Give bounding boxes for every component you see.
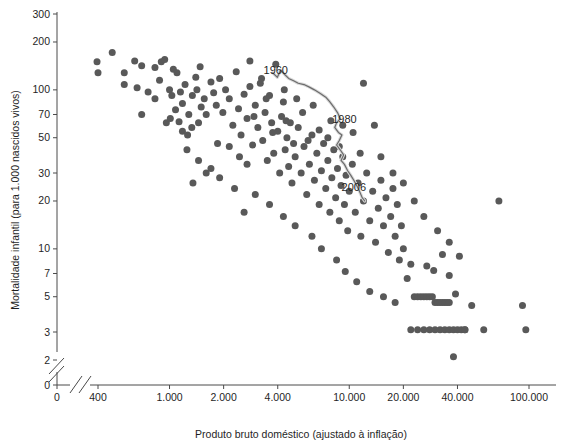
data-point [195, 119, 202, 126]
data-point [241, 209, 248, 216]
data-point [369, 188, 376, 195]
data-point [280, 98, 287, 105]
data-point [389, 170, 396, 177]
data-point [306, 161, 313, 168]
data-point [446, 239, 453, 246]
data-point [167, 115, 174, 122]
data-point [377, 177, 384, 184]
y-tick-label: 50 [38, 131, 50, 143]
annotation-label-2006: 2006 [342, 181, 366, 193]
data-point [176, 118, 183, 125]
data-point [423, 263, 430, 270]
data-point [360, 80, 367, 87]
data-point [229, 122, 236, 129]
data-point [394, 201, 401, 208]
data-point [207, 79, 214, 86]
data-point [414, 326, 421, 333]
data-point [468, 302, 475, 309]
x-tick-label: 1.000 [156, 391, 182, 403]
data-point [179, 128, 186, 135]
data-point [95, 69, 102, 76]
data-point [377, 153, 384, 160]
data-point [238, 132, 245, 139]
y-axis-title: Mortalidade infantil (para 1.000 nascido… [9, 90, 21, 309]
data-point [452, 291, 459, 298]
data-point [94, 58, 101, 65]
data-point [320, 140, 327, 147]
x-tick-label: 10.000 [333, 391, 365, 403]
data-point [219, 109, 226, 116]
data-point [411, 198, 418, 205]
data-point [262, 109, 269, 116]
data-point [450, 353, 457, 360]
data-point [313, 150, 320, 157]
data-point [334, 165, 341, 172]
data-point [168, 92, 175, 99]
data-point [222, 86, 229, 93]
scatter-plot-svg: 300200100705030201075320 04001.0002.0004… [0, 0, 562, 447]
data-point [357, 150, 364, 157]
data-point [308, 233, 315, 240]
data-point [283, 117, 290, 124]
data-point [276, 170, 283, 177]
data-point [134, 84, 141, 91]
data-point [301, 143, 308, 150]
data-point [495, 198, 502, 205]
data-point [446, 272, 453, 279]
y-tick-label: 0 [44, 379, 50, 391]
data-point [121, 69, 128, 76]
data-point [407, 261, 414, 268]
data-point [197, 63, 204, 70]
data-point [138, 111, 145, 118]
data-point [121, 81, 128, 88]
data-point [231, 185, 238, 192]
data-point [233, 68, 240, 75]
data-point [285, 163, 292, 170]
data-point [151, 95, 158, 102]
data-point [522, 326, 529, 333]
data-point [456, 253, 463, 260]
data-point [249, 142, 256, 149]
data-point [203, 111, 210, 118]
data-point [400, 179, 407, 186]
data-point [216, 174, 223, 181]
data-point [353, 278, 360, 285]
data-point [259, 137, 266, 144]
y-tick-label: 300 [32, 8, 50, 20]
data-point [290, 140, 297, 147]
data-point [350, 129, 357, 136]
data-point [236, 153, 243, 160]
data-point [311, 177, 318, 184]
data-point [380, 222, 387, 229]
chart-container: 300200100705030201075320 04001.0002.0004… [0, 0, 562, 447]
data-point [400, 245, 407, 252]
data-point [151, 64, 158, 71]
data-point [195, 157, 202, 164]
data-point [324, 134, 331, 141]
data-point [385, 249, 392, 256]
data-point [420, 213, 427, 220]
data-point [177, 88, 184, 95]
data-point [179, 100, 186, 107]
y-tick-label: 3 [44, 326, 50, 338]
data-point [189, 179, 196, 186]
data-point [387, 213, 394, 220]
x-axis-title: Produto bruto doméstico (ajustado à infl… [195, 428, 407, 440]
data-point [316, 126, 323, 133]
data-point [252, 102, 259, 109]
data-point [138, 62, 145, 69]
data-point [407, 326, 414, 333]
data-point [303, 191, 310, 198]
data-point [293, 95, 300, 102]
data-point [266, 201, 273, 208]
data-point [280, 213, 287, 220]
data-point [396, 257, 403, 264]
data-point [235, 105, 242, 112]
annotation-label-1980: 1980 [332, 113, 356, 125]
annotation-label-1960: 1960 [264, 64, 288, 76]
data-point [332, 194, 339, 201]
x-tick-label: 4.000 [265, 391, 291, 403]
data-point [439, 251, 446, 258]
data-point [380, 293, 387, 300]
y-tick-label: 10 [38, 242, 50, 254]
